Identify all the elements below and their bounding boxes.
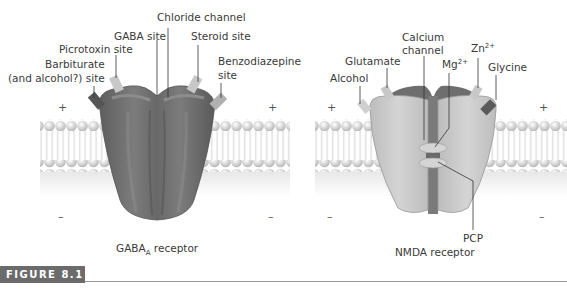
label-barbiturate-line2: (and alcohol?) site <box>8 72 105 84</box>
label-mg: Mg2+ <box>442 58 468 70</box>
label-gaba-site: GABA site <box>114 30 166 42</box>
nmda-plus-right: + <box>539 101 548 114</box>
label-steroid-site: Steroid site <box>191 30 251 42</box>
label-chloride-channel: Chloride channel <box>157 11 246 23</box>
label-calcium-line1: Calcium <box>402 31 444 43</box>
label-benzodiazepine-line2: site <box>218 69 237 81</box>
nmda-minus-left: – <box>327 210 333 223</box>
gaba-caption: GABAA receptor <box>116 242 198 254</box>
gaba-minus-right: – <box>268 210 274 223</box>
gaba-receptor <box>88 75 227 220</box>
label-pcp: PCP <box>463 232 483 244</box>
label-zn: Zn2+ <box>471 42 495 54</box>
label-glutamate: Glutamate <box>345 55 401 67</box>
gaba-minus-left: – <box>58 210 64 223</box>
figure-badge: FIGURE 8.1 <box>0 266 85 283</box>
label-alcohol: Alcohol <box>330 72 368 84</box>
nmda-minus-right: – <box>539 210 545 223</box>
label-calcium-line2: channel <box>402 44 444 56</box>
label-benzodiazepine-line1: Benzodiazepine <box>218 55 301 67</box>
nmda-caption: NMDA receptor <box>395 246 475 258</box>
nmda-plus-left: + <box>327 101 336 114</box>
gaba-plus-left: + <box>58 101 67 114</box>
gaba-plus-right: + <box>268 101 277 114</box>
figure-rule <box>85 281 567 282</box>
label-picrotoxin-site: Picrotoxin site <box>59 43 133 55</box>
label-glycine: Glycine <box>488 61 527 73</box>
label-barbiturate-line1: Barbiturate <box>45 58 105 70</box>
